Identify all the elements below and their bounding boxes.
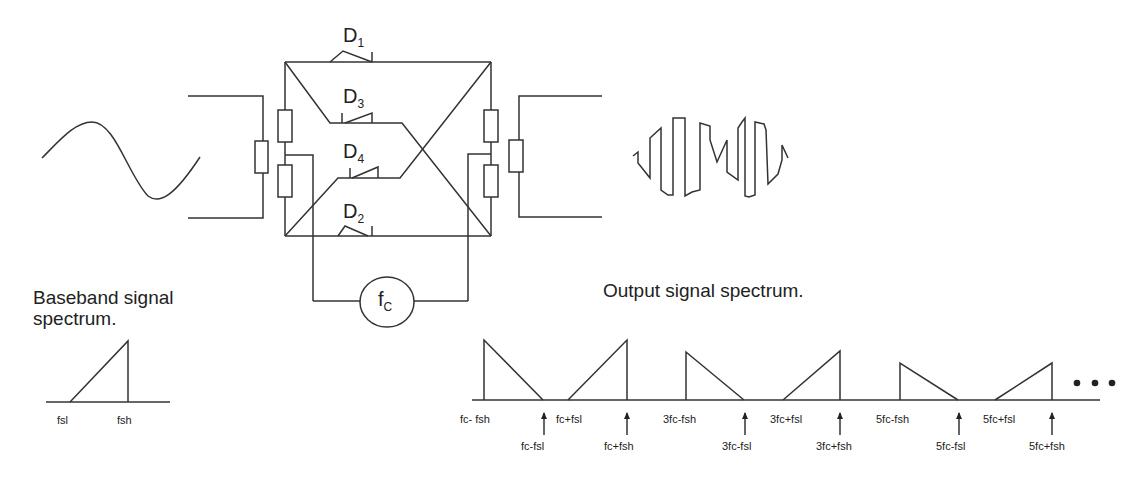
ellipsis-dot — [1074, 380, 1081, 387]
baseband-tick-fsh: fsh — [117, 414, 132, 426]
tick-3fc-minus-fsl: 3fc-fsl — [722, 440, 751, 452]
arrow-marker — [837, 412, 843, 435]
baseband-title-line1: Baseband signal — [33, 287, 174, 308]
tick-fc-minus-fsl: fc-fsl — [521, 440, 544, 452]
bridge-right-side — [468, 62, 498, 301]
tick-fc-minus-fsh: fc- fsh — [460, 413, 490, 425]
diode-d1-label: D1 — [343, 24, 364, 50]
diode-d3-symbol — [342, 113, 372, 123]
arrow-marker — [541, 412, 547, 435]
baseband-tick-fsl: fsl — [57, 414, 68, 426]
arrow-marker — [1049, 412, 1055, 435]
output-spectrum: fc- fsh fc+fsl 3fc-fsh 3fc+fsl 5fc-fsh 5… — [460, 340, 1115, 452]
diode-d2-symbol — [338, 226, 372, 236]
baseband-title-line2: spectrum. — [33, 308, 116, 329]
left-lower-winding — [278, 165, 292, 197]
output-title: Output signal spectrum. — [603, 280, 804, 301]
right-lower-winding — [484, 165, 498, 197]
tick-3fc-plus-fsl: 3fc+fsl — [770, 413, 802, 425]
diode-d4-label: D4 — [343, 140, 364, 166]
output-modulated-waveform — [633, 118, 788, 197]
baseband-spectrum: fsl fsh — [46, 341, 170, 426]
diode-d2-label: D2 — [343, 200, 364, 226]
arrow-marker — [956, 412, 962, 435]
3fc-upper-sideband — [783, 351, 840, 400]
tick-5fc-plus-fsh: 5fc+fsh — [1029, 440, 1065, 452]
input-primary-winding — [255, 141, 268, 173]
tick-fc-plus-fsl: fc+fsl — [556, 413, 582, 425]
tick-3fc-plus-fsh: 3fc+fsh — [816, 440, 852, 452]
fc-upper-sideband — [568, 340, 627, 400]
left-upper-winding — [278, 110, 292, 142]
d4-path — [285, 62, 491, 236]
arrow-marker — [624, 412, 630, 435]
tick-5fc-minus-fsh: 5fc-fsh — [876, 413, 909, 425]
fc-lower-sideband — [484, 340, 543, 400]
diode-d4-symbol — [350, 167, 378, 178]
baseband-band — [70, 341, 128, 402]
bridge-left-side — [278, 62, 313, 301]
output-transformer — [509, 96, 602, 217]
right-upper-winding — [484, 110, 498, 142]
arrow-marker — [742, 412, 748, 435]
tick-5fc-minus-fsl: 5fc-fsl — [936, 440, 965, 452]
5fc-upper-sideband — [995, 363, 1052, 400]
tick-fc-plus-fsh: fc+fsh — [604, 440, 634, 452]
carrier-oscillator: fC — [313, 277, 468, 327]
ellipsis-dot — [1092, 380, 1099, 387]
ring-modulator-diagram: D1 D3 D4 D2 fC Baseband signal spectrum.… — [0, 0, 1148, 484]
ellipsis-dot — [1109, 380, 1116, 387]
input-sine-wave — [42, 122, 200, 199]
d3-path — [285, 62, 491, 236]
output-secondary-winding — [509, 140, 523, 172]
diode-d3-label: D3 — [343, 85, 364, 111]
diode-d1-symbol — [330, 51, 372, 62]
5fc-lower-sideband — [900, 363, 958, 400]
tick-3fc-minus-fsh: 3fc-fsh — [663, 413, 696, 425]
tick-5fc-plus-fsl: 5fc+fsl — [983, 413, 1015, 425]
3fc-lower-sideband — [686, 352, 744, 400]
